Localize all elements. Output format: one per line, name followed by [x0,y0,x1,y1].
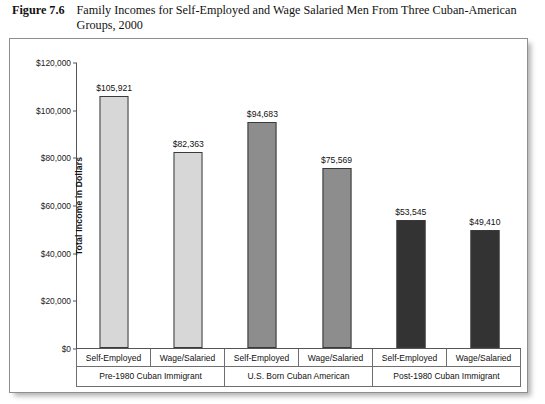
bar-slot: $75,569 [300,63,374,348]
bar-value-label: $49,410 [469,217,500,227]
bar[interactable] [248,122,277,348]
figure-title: Family Incomes for Self-Employed and Wag… [77,3,532,33]
group-label: Post-1980 Cuban Immigrant [373,366,520,386]
y-axis-tick-label: $40,000 [41,249,77,259]
bar-value-label: $53,545 [395,207,426,217]
category-label: Self-Employed [373,349,447,366]
group-row: Pre-1980 Cuban ImmigrantU.S. Born Cuban … [77,366,520,386]
category-axis-table: Self-EmployedWage/SalariedSelf-EmployedW… [76,349,521,387]
bar-series: $105,921$82,363$94,683$75,569$53,545$49,… [77,63,521,348]
bar-slot: $53,545 [374,63,448,348]
group-label: U.S. Born Cuban American [225,366,373,386]
bar[interactable] [100,96,129,348]
category-label: Self-Employed [225,349,299,366]
category-label: Wage/Salaried [299,349,373,366]
bar-slot: $82,363 [151,63,225,348]
bar[interactable] [174,152,203,348]
category-label: Wage/Salaried [151,349,225,366]
figure-number: Figure 7.6 [12,3,77,18]
group-label: Pre-1980 Cuban Immigrant [77,366,225,386]
bar[interactable] [396,220,425,348]
bar-value-label: $82,363 [173,139,204,149]
bar-slot: $94,683 [225,63,299,348]
bar-value-label: $105,921 [96,83,132,93]
bar[interactable] [322,168,351,348]
y-axis-tick-label: $60,000 [41,201,77,211]
bar[interactable] [470,230,499,348]
y-axis-tick-label: $100,000 [36,106,77,116]
y-axis-tick-label: $80,000 [41,153,77,163]
bar-value-label: $75,569 [321,155,352,165]
category-label: Wage/Salaried [447,349,520,366]
category-row: Self-EmployedWage/SalariedSelf-EmployedW… [77,349,520,366]
bar-slot: $49,410 [448,63,522,348]
bar-slot: $105,921 [77,63,151,348]
bar-value-label: $94,683 [247,109,278,119]
chart-panel: Total Income in Dollars $0$20,000$40,000… [9,38,528,393]
figure-caption: Figure 7.6 Family Incomes for Self-Emplo… [12,3,532,33]
plot-area: Total Income in Dollars $0$20,000$40,000… [76,63,521,349]
category-label: Self-Employed [77,349,151,366]
y-axis-tick-label: $120,000 [36,58,77,68]
y-axis-tick-label: $20,000 [41,296,77,306]
